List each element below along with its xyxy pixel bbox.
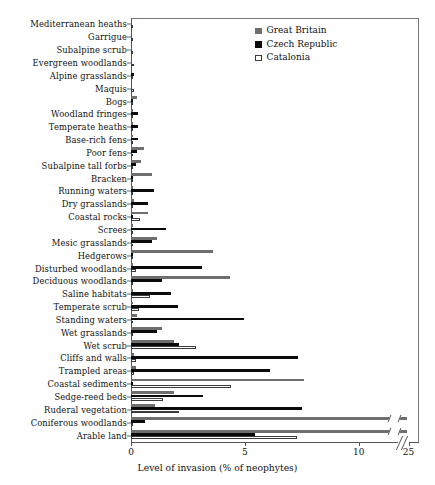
bar-czech-republic (131, 202, 148, 205)
category-label: Dry grasslands (62, 200, 127, 209)
bar-group (131, 172, 421, 185)
category-label: Woodland fringes (51, 110, 127, 119)
category-label: Wet grasslands (61, 328, 127, 337)
category-label: Hedgerows (78, 251, 127, 260)
category-row: Saline habitats (0, 288, 435, 301)
category-row: Dry grasslands (0, 198, 435, 211)
category-label: Base-rich fens (65, 136, 127, 145)
bar-catalonia (131, 166, 133, 169)
legend-label-czech-republic: Czech Republic (267, 38, 338, 52)
bar-czech-republic (131, 240, 152, 243)
bar-catalonia (131, 423, 133, 426)
bar-catalonia (131, 89, 134, 92)
category-label: Poor fens (86, 148, 127, 157)
category-row: Coastal sediments (0, 378, 435, 391)
category-label: Mesic grasslands (52, 238, 127, 247)
category-row: Base-rich fens (0, 134, 435, 147)
bar-catalonia (131, 256, 133, 259)
category-row: Alpine grasslands (0, 69, 435, 82)
filled-gray-square-icon (255, 28, 262, 35)
bar-catalonia (131, 218, 140, 221)
category-label: Coastal rocks (68, 213, 127, 222)
bar-great-britain (131, 417, 407, 420)
bar-catalonia (131, 205, 133, 208)
bar-great-britain (131, 173, 152, 176)
category-row: Garrigue (0, 31, 435, 44)
axis-break-icon (396, 436, 412, 450)
category-label: Maquis (95, 84, 127, 93)
legend-item-catalonia: Catalonia (255, 51, 337, 65)
category-label: Arable land (77, 431, 127, 440)
bar-catalonia (131, 128, 133, 131)
category-label: Alpine grasslands (50, 71, 127, 80)
bar-catalonia (131, 308, 139, 311)
category-rows: Mediterranean heathsGarrigueSubalpine sc… (0, 18, 435, 442)
bar-group (131, 403, 421, 416)
bar-czech-republic (131, 266, 202, 269)
bar-czech-republic (131, 420, 145, 423)
category-label: Bogs (106, 97, 127, 106)
category-label: Cliffs and walls (60, 354, 127, 363)
bar-group (131, 69, 421, 82)
category-row: Subalpine tall forbs (0, 159, 435, 172)
x-axis-title: Level of invasion (% of neophytes) (0, 462, 435, 473)
bar-catalonia (131, 192, 133, 195)
bar-czech-republic (131, 279, 162, 282)
category-row: Disturbed woodlands (0, 262, 435, 275)
bar-group (131, 262, 421, 275)
bar-group (131, 134, 421, 147)
bar-group (131, 416, 421, 429)
x-tick-label: 0 (128, 447, 134, 457)
bar-catalonia (131, 359, 136, 362)
bar-catalonia (131, 295, 150, 298)
bar-catalonia (131, 282, 133, 285)
bar-group (131, 82, 421, 95)
bar-group (131, 236, 421, 249)
category-label: Wet scrub (83, 341, 127, 350)
category-row: Subalpine scrub (0, 44, 435, 57)
bar-great-britain (131, 212, 148, 215)
bar-catalonia (131, 411, 179, 414)
bar-catalonia (131, 154, 133, 157)
category-row: Woodland fringes (0, 108, 435, 121)
bar-group (131, 378, 421, 391)
bar-group (131, 95, 421, 108)
bar-catalonia (131, 51, 133, 54)
bar-group (131, 108, 421, 121)
bar-catalonia (131, 436, 297, 439)
x-axis-ticks: 051025 (0, 442, 435, 462)
bar-catalonia (131, 244, 133, 247)
bar-group (131, 198, 421, 211)
category-row: Wet grasslands (0, 326, 435, 339)
bar-group (131, 121, 421, 134)
category-row: Wet scrub (0, 339, 435, 352)
category-row: Standing waters (0, 314, 435, 327)
bar-group (131, 249, 421, 262)
category-row: Sedge-reed beds (0, 391, 435, 404)
legend-label-catalonia: Catalonia (267, 51, 311, 65)
bar-catalonia (131, 321, 133, 324)
bar-catalonia (131, 64, 134, 67)
bar-group (131, 224, 421, 237)
category-label: Temperate scrub (54, 303, 127, 312)
category-label: Garrigue (88, 33, 127, 42)
category-label: Temperate heaths (49, 123, 127, 132)
bar-group (131, 185, 421, 198)
legend-item-great-britain: Great Britain (255, 24, 337, 38)
bar-czech-republic (131, 330, 157, 333)
category-label: Subalpine tall forbs (42, 161, 127, 170)
x-tick-mark (131, 442, 132, 446)
bar-great-britain (131, 250, 213, 253)
bar-catalonia (131, 398, 163, 401)
category-label: Coastal sediments (48, 380, 127, 389)
bar-catalonia (131, 38, 133, 41)
category-row: Hedgerows (0, 249, 435, 262)
bar-group (131, 301, 421, 314)
bar-group (131, 365, 421, 378)
category-label: Coniferous woodlands (31, 418, 127, 427)
bar-catalonia (131, 372, 134, 375)
category-label: Saline habitats (62, 290, 127, 299)
legend: Great Britain Czech Republic Catalonia (255, 24, 337, 65)
category-label: Standing waters (56, 315, 127, 324)
bar-catalonia (131, 25, 133, 28)
